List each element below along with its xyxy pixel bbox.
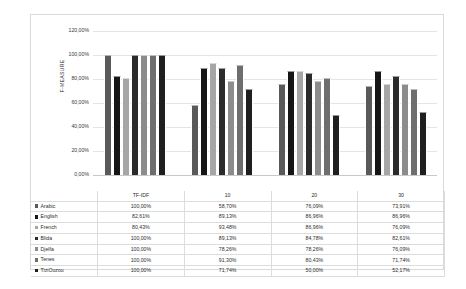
y-axis-tick-label: 60,00% <box>43 100 89 105</box>
table-cell: 86,96% <box>271 212 358 223</box>
legend-swatch-icon <box>35 269 38 272</box>
table-cell: 71,74% <box>184 266 271 277</box>
legend-label: Djelfa <box>41 246 54 252</box>
legend-item: TiziOuzou <box>31 266 98 277</box>
legend-label: Blida <box>41 235 53 241</box>
table-row: Arabic100,00%58,70%76,09%73,91% <box>31 201 445 212</box>
table-cell: 58,70% <box>184 201 271 212</box>
data-table: TF-IDF102030Arabic100,00%58,70%76,09%73,… <box>31 191 445 277</box>
table-cell: 76,09% <box>271 201 358 212</box>
legend-label: French <box>41 224 57 230</box>
table-cell: 93,48% <box>184 223 271 234</box>
bar <box>278 84 286 175</box>
table-cell: 100,00% <box>98 201 185 212</box>
table-cell: 91,30% <box>184 255 271 266</box>
table-cell: 76,09% <box>358 223 445 234</box>
legend-item: French <box>31 223 98 234</box>
bar <box>140 55 148 175</box>
bar <box>365 86 373 175</box>
table-row: Blida100,00%89,13%84,78%82,61% <box>31 233 445 244</box>
table-row: Djelfa100,00%78,26%78,26%76,09% <box>31 244 445 255</box>
table-cell: 76,09% <box>358 244 445 255</box>
chart-screenshot: F-MEASURE 0,00%20,00%40,00%60,00%80,00%1… <box>0 0 466 289</box>
legend-item: Arabic <box>31 201 98 212</box>
bar-group <box>354 31 437 175</box>
table-cell: 78,26% <box>271 244 358 255</box>
bar <box>374 71 382 175</box>
legend-label: Tenes <box>41 256 55 262</box>
table-cell: 100,00% <box>98 244 185 255</box>
table-header-row: TF-IDF102030 <box>31 191 445 201</box>
y-axis-tick-label: 100,00% <box>43 52 89 57</box>
table-corner-cell <box>31 191 98 201</box>
bar <box>191 105 199 175</box>
table-cell: 52,17% <box>358 266 445 277</box>
bar-group <box>180 31 263 175</box>
table-cell: 71,74% <box>358 255 445 266</box>
bar-group <box>267 31 350 175</box>
y-axis-tick-label: 20,00% <box>43 148 89 153</box>
bar <box>410 89 418 175</box>
bar <box>236 65 244 175</box>
bar <box>122 78 130 175</box>
bar <box>158 55 166 175</box>
y-axis-tick-label: 80,00% <box>43 76 89 81</box>
bar-groups <box>93 31 437 175</box>
legend-label: TiziOuzou <box>41 267 64 273</box>
legend-item: Djelfa <box>31 244 98 255</box>
table-cell: 80,43% <box>98 223 185 234</box>
table-cell: 80,43% <box>271 255 358 266</box>
legend-swatch-icon <box>35 215 38 218</box>
legend-item: Blida <box>31 233 98 244</box>
table-cell: 86,96% <box>271 223 358 234</box>
table-cell: 89,13% <box>184 212 271 223</box>
bar <box>314 81 322 175</box>
bar <box>392 76 400 175</box>
table-cell: 100,00% <box>98 233 185 244</box>
bar <box>113 76 121 175</box>
y-axis-tick-label: 0,00% <box>43 172 89 177</box>
bar <box>401 84 409 175</box>
legend-swatch-icon <box>35 247 38 250</box>
legend-label: Arabic <box>41 203 56 209</box>
legend-swatch-icon <box>35 204 38 207</box>
y-axis-tick-label: 120,00% <box>43 28 89 33</box>
bar <box>287 71 295 175</box>
table-row: TiziOuzou100,00%71,74%50,00%52,17% <box>31 266 445 277</box>
bar <box>332 115 340 175</box>
chart-frame: F-MEASURE 0,00%20,00%40,00%60,00%80,00%1… <box>30 14 444 270</box>
table-cell: 84,78% <box>271 233 358 244</box>
column-header: 20 <box>271 191 358 201</box>
plot-area: F-MEASURE 0,00%20,00%40,00%60,00%80,00%1… <box>31 15 445 190</box>
table-cell: 82,61% <box>98 212 185 223</box>
bar <box>383 84 391 175</box>
column-header: 10 <box>184 191 271 201</box>
table-cell: 73,91% <box>358 201 445 212</box>
table-cell: 50,00% <box>271 266 358 277</box>
table-cell: 100,00% <box>98 266 185 277</box>
column-header: 30 <box>358 191 445 201</box>
bar <box>305 73 313 175</box>
table-cell: 100,00% <box>98 255 185 266</box>
bar <box>227 81 235 175</box>
bar <box>200 68 208 175</box>
bar-group <box>93 31 176 175</box>
x-axis-line <box>93 175 437 176</box>
bar <box>218 68 226 175</box>
bar <box>104 55 112 175</box>
table-cell: 82,61% <box>358 233 445 244</box>
legend-swatch-icon <box>35 226 38 229</box>
table-cell: 78,26% <box>184 244 271 255</box>
table-cell: 89,13% <box>184 233 271 244</box>
bar <box>323 78 331 175</box>
legend-swatch-icon <box>35 258 38 261</box>
legend-label: English <box>41 213 58 219</box>
legend-swatch-icon <box>35 237 38 240</box>
table-row: Tenes100,00%91,30%80,43%71,74% <box>31 255 445 266</box>
bar <box>131 55 139 175</box>
bar <box>149 55 157 175</box>
bar <box>209 63 217 175</box>
bar <box>245 89 253 175</box>
legend-item: English <box>31 212 98 223</box>
column-header: TF-IDF <box>98 191 185 201</box>
